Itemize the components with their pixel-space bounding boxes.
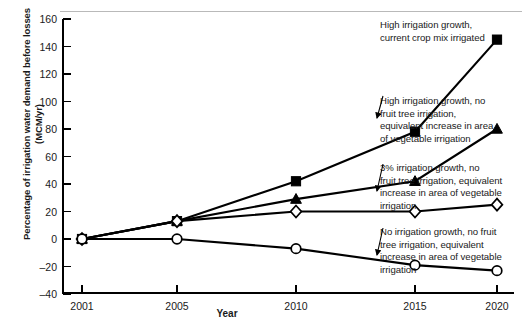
annotation-leader-lines <box>0 0 522 326</box>
leader-arrow <box>377 164 383 191</box>
leader-arrow <box>377 228 383 255</box>
chart-figure: Percentage of irrigation water demand be… <box>0 0 522 326</box>
leader-arrow <box>377 96 383 118</box>
